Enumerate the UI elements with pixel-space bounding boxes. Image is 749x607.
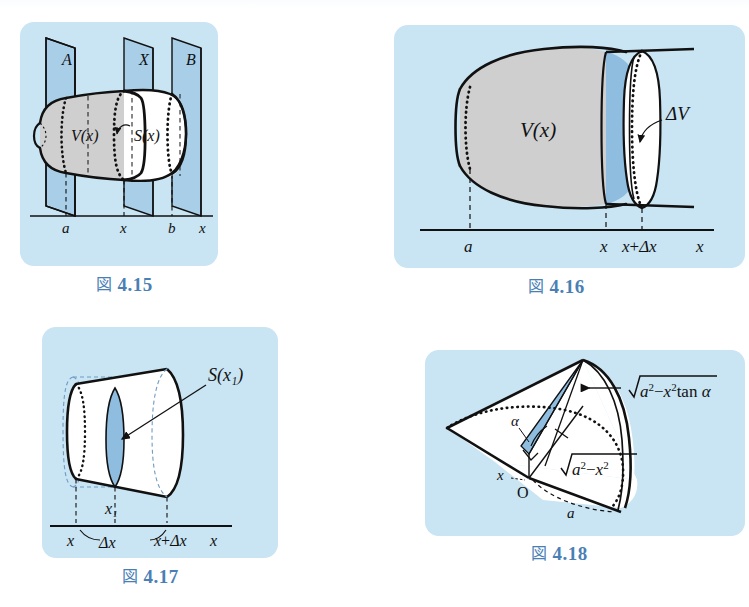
figure-panel-4-15: A X B [20,22,218,266]
caption-number-4-15: 4.15 [118,274,153,295]
tick-label-x: x [66,532,74,549]
left-tip-curve [34,123,40,148]
svg-text:a2−x2tan α: a2−x2tan α [640,381,712,401]
axis-label-x: x [198,220,206,236]
figure-caption-4-16: 図4.16 [528,274,585,298]
caption-kanji-4-17: 図 [122,567,139,586]
caption-kanji-4-18: 図 [531,544,548,563]
caption-number-4-17: 4.17 [144,566,179,587]
tick-label-b: b [168,220,176,236]
caption-number-4-16: 4.16 [550,276,585,297]
label-x: x [496,467,504,483]
tick-label-a: a [464,237,473,256]
figure-caption-4-15: 図4.15 [96,272,153,296]
caption-kanji-4-15: 図 [96,275,113,294]
axis-label-x: x [209,532,217,549]
label-radius-a: a [567,505,575,521]
label-height-expression: a2−x2tan α [629,376,717,401]
label-delta-v: ΔV [665,103,691,124]
frustum-fill [68,369,183,497]
figure-4-18-graphic: α a2−x2tan α a2−x2 x O a [425,350,745,536]
label-origin-O: O [517,484,529,501]
figure-caption-4-18: 図4.18 [531,541,588,565]
tick-label-x-plus-dx: x+Δx [621,237,657,256]
label-section-sx1: S(x₁) [208,365,243,386]
figure-caption-4-17: 図4.17 [122,564,179,588]
label-angle-alpha: α [511,413,520,429]
label-volume-vx: V(x) [71,127,99,145]
tick-label-a: a [62,220,70,236]
caption-kanji-4-16: 図 [528,277,545,296]
figure-panel-4-16: V(x) ΔV a x x+Δx x [394,25,745,268]
label-volume-vx: V(x) [520,118,556,142]
tick-label-x-plus-dx: x+Δx [153,532,187,549]
cross-section-blue [106,388,124,487]
figure-4-17-graphic: S(x₁) x₁ x Δx x+Δx x [42,327,278,558]
left-cap-outline [456,89,461,166]
figure-panel-4-18: α a2−x2tan α a2−x2 x O a [425,350,745,536]
tick-label-x1: x₁ [104,500,118,517]
label-plane-B: B [186,51,196,68]
tick-label-x: x [119,220,127,236]
brace-left [80,530,100,540]
label-plane-X: X [138,51,150,68]
caption-number-4-18: 4.18 [553,543,588,564]
tick-label-x: x [599,237,608,256]
label-section-sx: S(x) [134,127,160,145]
page-top-edge [0,0,749,9]
figure-4-15-graphic: A X B [20,22,218,266]
figure-4-16-graphic: V(x) ΔV a x x+Δx x [394,25,745,268]
label-plane-A: A [61,51,72,68]
figure-panel-4-17: S(x₁) x₁ x Δx x+Δx x [42,327,278,558]
axis-label-x: x [695,237,704,256]
tick-label-dx: Δx [98,534,116,551]
